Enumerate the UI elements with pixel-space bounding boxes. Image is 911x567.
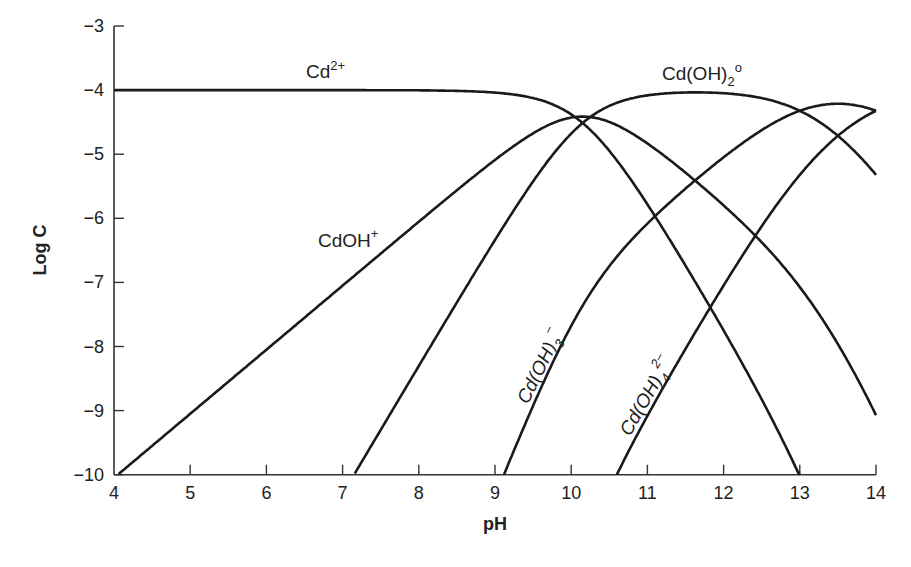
label-cdoh2: Cd(OH)2o (662, 60, 742, 89)
y-tick-label: −3 (83, 16, 104, 36)
x-tick-label: 9 (490, 483, 500, 503)
curve-cd-oh-3- (504, 104, 876, 475)
y-axis-label: Log C (30, 225, 50, 276)
label-cdoh: CdOH+ (318, 226, 378, 251)
x-tick-label: 13 (790, 483, 810, 503)
y-tick-label: −9 (83, 401, 104, 421)
x-tick-label: 8 (414, 483, 424, 503)
curve-cdoh- (119, 117, 876, 475)
label-cdoh3: Cd(OH)3− (508, 323, 571, 409)
curve-cd-oh-4-2- (617, 111, 876, 475)
x-tick-label: 7 (338, 483, 348, 503)
x-tick-label: 11 (638, 483, 657, 503)
x-tick-label: 4 (109, 483, 119, 503)
label-cd2: Cd2+ (306, 58, 345, 82)
y-tick-label: −10 (73, 465, 104, 485)
curve-cd2- (114, 90, 800, 475)
y-tick-label: −7 (83, 272, 104, 292)
x-tick-label: 14 (866, 483, 886, 503)
curves (114, 90, 876, 475)
y-tick-label: −8 (83, 337, 104, 357)
y-tick-label: −4 (83, 80, 104, 100)
speciation-chart: −3−4−5−6−7−8−9−104567891011121314 Log C … (0, 0, 911, 567)
x-tick-label: 12 (714, 483, 734, 503)
x-tick-label: 10 (561, 483, 581, 503)
y-tick-label: −6 (83, 208, 104, 228)
x-axis-label: pH (483, 514, 507, 534)
x-tick-label: 5 (185, 483, 195, 503)
label-cdoh4: Cd(OH)42− (611, 350, 682, 442)
y-tick-label: −5 (83, 144, 104, 164)
x-tick-label: 6 (261, 483, 271, 503)
